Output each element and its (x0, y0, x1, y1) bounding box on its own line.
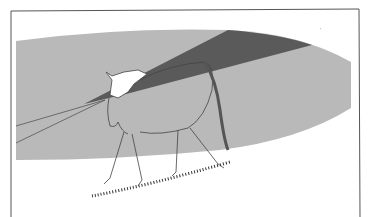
corner-mark: ' (320, 27, 321, 33)
figure: ' (0, 0, 371, 217)
grass (92, 162, 230, 196)
visual-field (16, 29, 351, 160)
horse-vision-diagram: ' (0, 0, 371, 217)
